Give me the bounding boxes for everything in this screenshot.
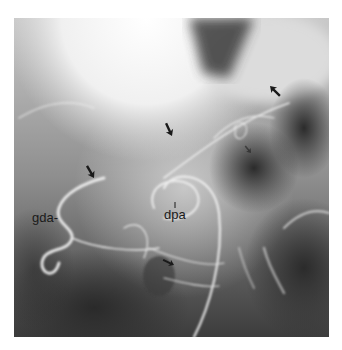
label-dpa: dpa xyxy=(164,208,186,221)
angiogram-image: gda- dpa xyxy=(14,18,329,337)
radiograph-background xyxy=(14,18,329,337)
label-gda: gda- xyxy=(32,211,58,224)
